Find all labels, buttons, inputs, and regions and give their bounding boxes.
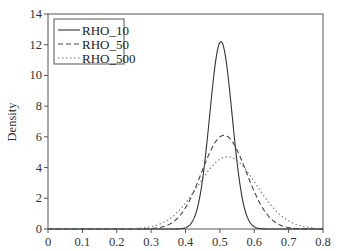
x-tick-label: 0.6 [246,235,262,249]
y-tick-label: 10 [30,68,43,82]
series-line-rho-10 [48,42,323,229]
legend-label: RHO_10 [82,23,129,38]
x-tick-label: 0.1 [75,235,91,249]
y-tick-label: 14 [30,7,43,21]
series-line-rho-50 [48,135,323,229]
y-axis-label: Density [5,102,19,142]
x-tick-label: 0.8 [315,235,331,249]
x-tick-label: 0.3 [143,235,159,249]
legend: RHO_10RHO_50RHO_500 [54,19,135,66]
legend-label: RHO_500 [82,51,135,66]
y-tick-label: 4 [36,161,43,175]
y-axis-ticks: 02468101214 [30,7,49,236]
y-tick-label: 8 [36,99,42,113]
density-chart: 02468101214 00.10.20.30.40.50.60.70.8 De… [0,0,339,251]
density-curves [48,42,323,229]
y-tick-label: 0 [36,222,42,236]
x-tick-label: 0.7 [281,235,297,249]
x-tick-label: 0 [45,235,51,249]
series-line-rho-500 [48,157,323,229]
y-tick-label: 6 [36,130,42,144]
x-tick-label: 0.2 [109,235,125,249]
y-tick-label: 2 [36,191,42,205]
y-tick-label: 12 [30,38,43,52]
x-axis-ticks: 00.10.20.30.40.50.60.70.8 [45,229,331,249]
legend-label: RHO_50 [82,37,129,52]
x-tick-label: 0.5 [212,235,228,249]
x-tick-label: 0.4 [178,235,194,249]
